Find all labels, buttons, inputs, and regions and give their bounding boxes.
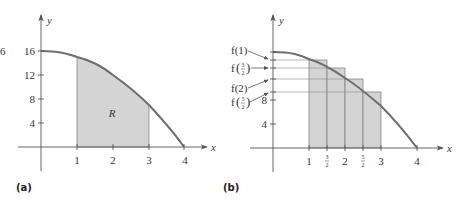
y-tick-4: 4: [30, 117, 36, 129]
figure: 6 16 12 8 4 1 2 3 4 x y R (a): [0, 0, 464, 211]
b-x-tick-3-2: 3 2: [325, 154, 329, 168]
region-label: R: [108, 107, 116, 119]
y-tick-12: 12: [24, 69, 35, 81]
svg-text:5: 5: [362, 154, 365, 160]
b-x-tick-1: 1: [306, 155, 312, 167]
edge-fragment: 6: [0, 45, 6, 57]
b-x-tick-4: 4: [414, 155, 420, 167]
riemann-rect-4: [363, 92, 381, 148]
svg-text:(: (: [236, 60, 240, 75]
region-r-fill: [77, 57, 149, 147]
b-y-axis-label: y: [278, 14, 284, 26]
svg-text:(: (: [236, 94, 240, 109]
riemann-rect-2: [327, 68, 345, 148]
x-axis-label: x: [210, 141, 216, 153]
svg-text:3: 3: [242, 62, 245, 68]
label-f52: f ( 5 2 ): [231, 94, 250, 110]
x-tick-4: 4: [182, 154, 188, 166]
x-tick-3: 3: [146, 154, 152, 166]
y-axis-label: y: [46, 14, 52, 26]
svg-text:3: 3: [326, 154, 329, 160]
panel-label-a: (a): [16, 182, 32, 193]
b-x-axis-label: x: [446, 142, 452, 154]
b-x-tick-5-2: 5 2: [361, 154, 365, 168]
svg-text:5: 5: [242, 96, 245, 102]
riemann-rect-1: [309, 60, 327, 148]
x-tick-1: 1: [74, 154, 80, 166]
svg-text:): ): [246, 60, 250, 75]
y-tick-16: 16: [24, 45, 36, 57]
svg-text:f: f: [231, 96, 235, 108]
b-x-tick-3: 3: [378, 155, 384, 167]
panel-b: 8 4 1 3 2 2 5 2 3 4 x y f(1) f ( 3 2 ) f: [223, 14, 452, 193]
arrow-f1: [248, 51, 268, 59]
arrow-f2: [248, 80, 268, 88]
svg-text:2: 2: [326, 162, 329, 168]
label-f32: f ( 3 2 ): [231, 60, 250, 76]
svg-text:f: f: [231, 62, 235, 74]
b-y-tick-4: 4: [262, 118, 268, 130]
x-tick-2: 2: [110, 154, 116, 166]
y-tick-8: 8: [30, 93, 36, 105]
svg-text:2: 2: [242, 104, 245, 110]
svg-text:2: 2: [242, 70, 245, 76]
svg-text:2: 2: [362, 162, 365, 168]
label-f1: f(1): [231, 44, 248, 57]
b-x-tick-2: 2: [342, 155, 348, 167]
panel-label-b: (b): [223, 182, 239, 193]
svg-text:): ): [246, 94, 250, 109]
panel-a: 16 12 8 4 1 2 3 4 x y R (a): [16, 14, 216, 193]
